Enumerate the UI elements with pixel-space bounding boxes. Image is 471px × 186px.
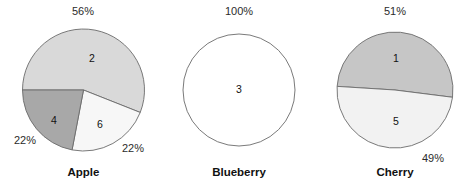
pct-label-cherry-1: 51%: [384, 5, 406, 17]
slice-number-cherry-5: 5: [393, 115, 399, 127]
slice-number-apple-2: 2: [89, 52, 95, 64]
pie-chart-figure: 26456%22%22%Apple3100%Blueberry1551%49%C…: [0, 0, 471, 186]
pie-apple: 26456%22%22%Apple: [14, 5, 145, 178]
pie-blueberry: 3100%Blueberry: [183, 5, 295, 178]
pct-label-blueberry-3: 100%: [225, 5, 253, 17]
pie-chart-canvas: 26456%22%22%Apple3100%Blueberry1551%49%C…: [0, 0, 471, 186]
slice-number-apple-4: 4: [51, 114, 57, 126]
group-label-apple: Apple: [68, 166, 100, 178]
group-label-cherry: Cherry: [376, 166, 414, 178]
pct-label-apple-6: 22%: [122, 142, 144, 154]
slice-number-cherry-1: 1: [393, 52, 399, 64]
slice-number-blueberry-3: 3: [236, 83, 242, 95]
pct-label-apple-2: 56%: [72, 5, 94, 17]
group-label-blueberry: Blueberry: [212, 166, 266, 178]
slice-number-apple-6: 6: [97, 118, 103, 130]
pct-label-apple-4: 22%: [14, 134, 36, 146]
pie-cherry: 1551%49%Cherry: [337, 5, 453, 178]
pct-label-cherry-5: 49%: [422, 152, 444, 164]
